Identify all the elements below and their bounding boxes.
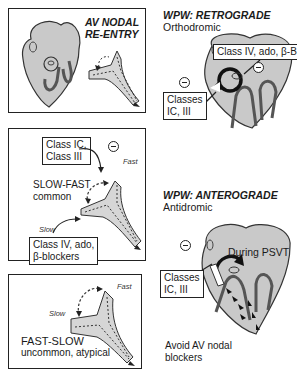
drug-line-2: IC, III xyxy=(164,284,200,296)
note-line-2: blockers xyxy=(165,352,232,364)
note-line-1: Avoid AV nodal xyxy=(165,340,232,352)
heart-icon xyxy=(0,0,297,375)
during-psvt-label: During PSVT xyxy=(228,246,289,258)
drug-box-classes-ic-iii: Classes IC, III xyxy=(160,270,204,298)
drug-line-1: Classes xyxy=(164,272,200,284)
inhibit-minus-icon xyxy=(180,240,191,251)
avoid-av-nodal-note: Avoid AV nodal blockers xyxy=(165,340,232,364)
